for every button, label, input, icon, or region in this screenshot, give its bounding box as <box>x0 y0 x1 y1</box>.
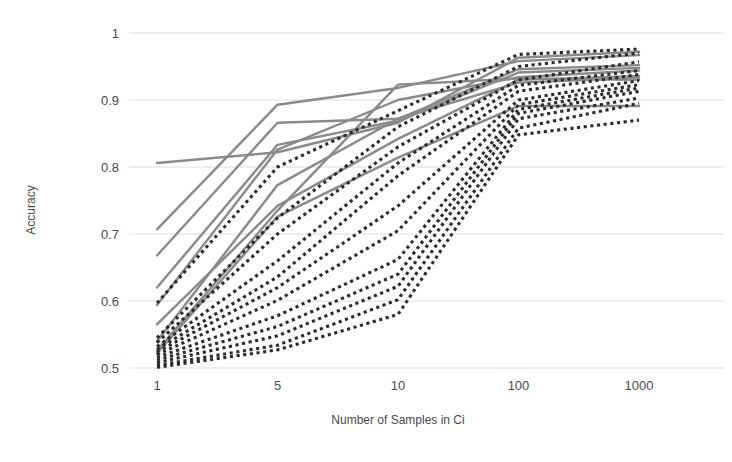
y-tick-label: 1 <box>112 26 119 41</box>
y-tick-label: 0.7 <box>101 227 119 242</box>
y-axis-title: Accuracy <box>24 185 38 234</box>
y-tick-label: 0.8 <box>101 160 119 175</box>
x-tick-label: 1 <box>153 378 160 393</box>
y-tick-label: 0.9 <box>101 93 119 108</box>
x-tick-label: 10 <box>391 378 405 393</box>
accuracy-vs-samples-chart: 0.50.60.70.80.91 15101001000 Number of S… <box>0 0 732 462</box>
x-tick-label: 100 <box>508 378 530 393</box>
x-tick-label: 5 <box>274 378 281 393</box>
y-tick-label: 0.6 <box>101 294 119 309</box>
x-axis-title: Number of Samples in Ci <box>331 413 464 427</box>
chart-canvas: 0.50.60.70.80.91 15101001000 Number of S… <box>0 0 732 462</box>
y-tick-label: 0.5 <box>101 361 119 376</box>
x-tick-label: 1000 <box>625 378 654 393</box>
